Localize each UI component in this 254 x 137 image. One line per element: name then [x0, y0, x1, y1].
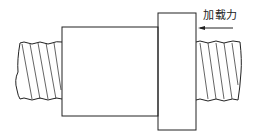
right-screw-shaft	[196, 41, 241, 101]
load-force-label: 加载力	[203, 9, 238, 23]
nut-flange	[158, 13, 196, 130]
load-arrow-icon	[198, 26, 233, 30]
left-screw-shaft	[16, 42, 62, 100]
nut-body	[62, 27, 158, 116]
